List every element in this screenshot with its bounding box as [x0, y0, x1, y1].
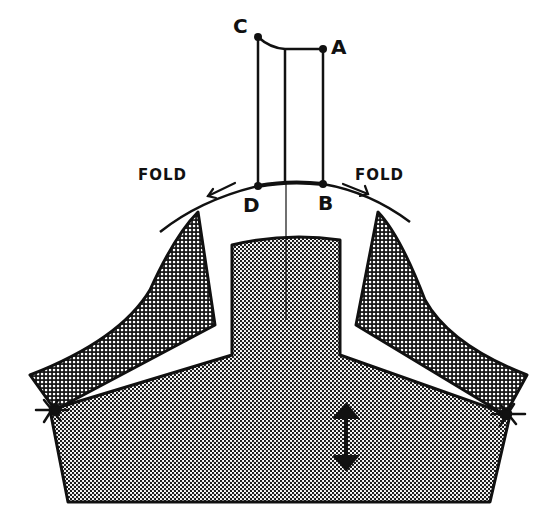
- line-c-a-curve: [258, 37, 323, 49]
- point-c-dot: [254, 33, 262, 41]
- point-d-dot: [254, 182, 262, 190]
- db-seam-line: [258, 182, 323, 186]
- fold-right-label: FOLD: [355, 168, 404, 183]
- fold-arrow-left-icon: [208, 183, 235, 198]
- point-d-label: D: [243, 195, 260, 215]
- pattern-diagram: [0, 0, 552, 522]
- point-a-dot: [319, 45, 327, 53]
- fold-left-label: FOLD: [138, 168, 187, 183]
- point-b-dot: [319, 180, 327, 188]
- point-c-label: C: [233, 16, 248, 36]
- point-b-label: B: [318, 193, 333, 213]
- point-a-label: A: [331, 37, 346, 57]
